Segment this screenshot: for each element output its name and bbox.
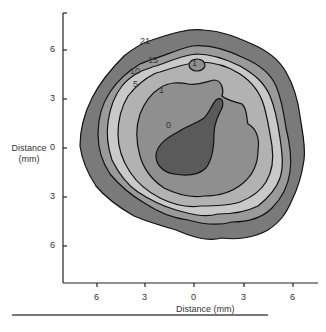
contour-label-1-island: 1: [192, 58, 197, 68]
contour-figure: [0, 0, 326, 332]
y-tick-label: 6: [50, 240, 55, 250]
contour-label-1: 1: [159, 85, 164, 95]
contour-label-0: 0: [166, 120, 171, 130]
y-axis-label-line2: (mm): [8, 154, 50, 165]
y-axis: [63, 13, 67, 283]
contour-label-15: 15: [148, 55, 158, 65]
y-axis-label-line1: Distance: [8, 143, 50, 154]
x-tick-label: 3: [241, 292, 246, 302]
y-tick-label: 3: [50, 191, 55, 201]
y-tick-label: 3: [50, 93, 55, 103]
y-axis-label: Distance (mm): [8, 143, 50, 165]
bottom-rule: [12, 314, 268, 316]
x-tick-label: 6: [290, 292, 295, 302]
contour-label-10: 10: [130, 66, 140, 76]
y-tick-label: 0: [50, 142, 55, 152]
x-tick-label: 6: [94, 292, 99, 302]
contour-label-5: 5: [133, 79, 138, 89]
x-axis-label: Distance (mm): [176, 304, 235, 314]
x-tick-label: 0: [191, 292, 196, 302]
x-axis: [63, 283, 318, 287]
contour-label-21: 21: [140, 36, 150, 46]
x-tick-label: 3: [142, 292, 147, 302]
y-tick-label: 6: [50, 44, 55, 54]
